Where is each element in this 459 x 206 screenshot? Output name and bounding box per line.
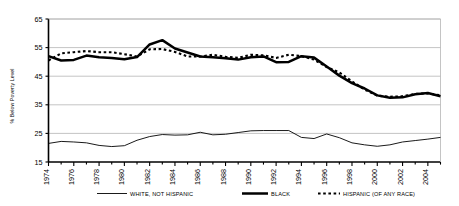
x-tick-label: 2004 xyxy=(421,169,430,185)
y-tick-label: 15 xyxy=(35,158,43,167)
series-line xyxy=(49,40,441,97)
x-tick-label: 1996 xyxy=(320,169,329,185)
x-tick-label: 1994 xyxy=(294,169,303,185)
x-tick-label: 1990 xyxy=(244,169,253,185)
legend-label: WHITE, NOT HISPANIC xyxy=(130,191,193,197)
y-axis-title: % Below Poverty Level xyxy=(9,68,15,123)
x-tick-label: 1998 xyxy=(345,169,354,185)
x-tick-label: 1992 xyxy=(269,169,278,185)
chart-canvas: 152535455565 197419761978198019821984198… xyxy=(0,0,459,206)
x-tick-label: 1986 xyxy=(193,169,202,185)
y-tick-label: 55 xyxy=(35,43,43,52)
series-line xyxy=(49,49,441,97)
y-tick-label: 45 xyxy=(35,72,43,81)
gridlines xyxy=(49,19,441,133)
y-axis-title-text: % Below Poverty Level xyxy=(9,68,15,123)
y-tick-label: 35 xyxy=(35,100,43,109)
x-tick-label: 1974 xyxy=(42,169,51,185)
chart-legend: WHITE, NOT HISPANICBLACKHISPANIC (OF ANY… xyxy=(97,191,415,197)
legend-label: HISPANIC (OF ANY RACE) xyxy=(343,191,415,197)
x-tick-label: 1988 xyxy=(219,169,228,185)
legend-label: BLACK xyxy=(271,191,290,197)
x-tick-label: 1982 xyxy=(143,169,152,185)
x-tick-label: 1978 xyxy=(92,169,101,185)
y-tick-label: 65 xyxy=(35,15,43,24)
x-tick-label: 1980 xyxy=(117,169,126,185)
x-tick-label: 2000 xyxy=(370,169,379,185)
series-line xyxy=(49,131,441,147)
y-tick-label: 25 xyxy=(35,129,43,138)
poverty-line-chart: 152535455565 197419761978198019821984198… xyxy=(0,0,459,206)
x-tick-label: 1976 xyxy=(67,169,76,185)
x-tick-label: 1984 xyxy=(168,169,177,185)
plot-frame xyxy=(49,19,441,162)
y-axis-tick-labels: 152535455565 xyxy=(35,15,43,167)
x-tick-label: 2002 xyxy=(396,169,405,185)
series-layer xyxy=(49,40,441,146)
x-axis-tick-labels: 1974197619781980198219841986198819901992… xyxy=(42,169,430,185)
